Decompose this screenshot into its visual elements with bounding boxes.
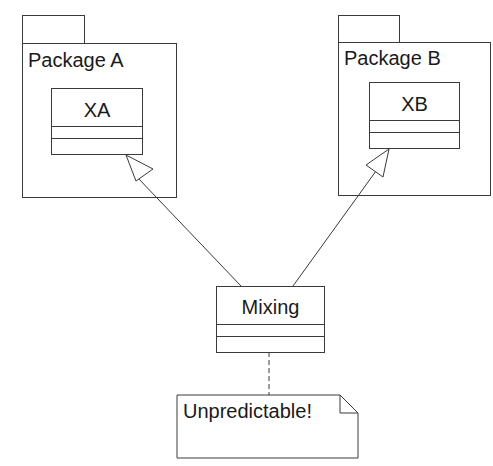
class-mixing[interactable]: Mixing [216,286,325,353]
connectors [0,0,493,466]
generalization-arrowhead-xb [366,149,389,177]
class-mixing-name: Mixing [217,297,324,317]
generalization-line-xb [293,171,376,286]
note-text: Unpredictable! [183,400,312,423]
generalization-line-xa [137,177,241,286]
class-mixing-attributes-divider [217,324,324,325]
class-mixing-operations-divider [217,336,324,337]
generalization-arrowhead-xa [126,155,153,181]
